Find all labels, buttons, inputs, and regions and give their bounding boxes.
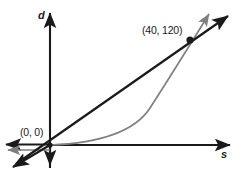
graph-figure: d s (0, 0) (40, 120) <box>0 0 242 173</box>
line-linear <box>16 16 228 164</box>
graph-canvas <box>0 0 242 173</box>
data-point-0-0 <box>47 142 52 147</box>
curve-quadratic <box>50 14 209 145</box>
origin-point-label: (0, 0) <box>20 127 43 138</box>
data-point-40-120 <box>186 36 193 43</box>
line-linear-negative-arrow <box>13 145 50 167</box>
y-axis-label: d <box>38 10 45 21</box>
x-axis-label: s <box>221 149 227 160</box>
data-point-label: (40, 120) <box>142 25 182 36</box>
